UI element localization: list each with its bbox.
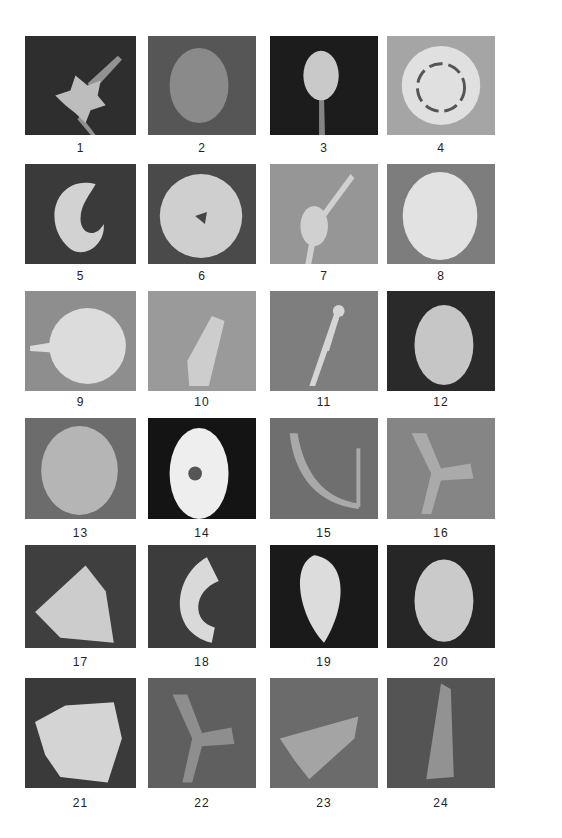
figure-panel-4 [387, 36, 495, 135]
figure-label: 18 [147, 655, 257, 669]
figure-label: 17 [26, 655, 136, 669]
figure-label: 7 [269, 269, 379, 283]
figure-panel-16 [387, 418, 495, 519]
specimen-image [270, 678, 378, 788]
specimen-image [148, 418, 256, 519]
specimen-image [270, 545, 378, 648]
specimen-image [148, 164, 256, 264]
figure-label: 16 [386, 526, 496, 540]
figure-panel-17 [25, 545, 136, 648]
specimen-image [25, 678, 136, 788]
figure-panel-19 [270, 545, 378, 648]
figure-label: 24 [386, 796, 496, 810]
figure-label: 2 [147, 141, 257, 155]
specimen-image [270, 291, 378, 391]
figure-panel-23 [270, 678, 378, 788]
specimen-image [270, 36, 378, 135]
figure-label: 13 [26, 526, 136, 540]
figure-panel-14 [148, 418, 256, 519]
figure-panel-12 [387, 291, 495, 391]
figure-panel-18 [148, 545, 256, 648]
specimen-image [25, 291, 136, 391]
figure-label: 23 [269, 796, 379, 810]
specimen-image [270, 164, 378, 264]
figure-panel-10 [148, 291, 256, 391]
figure-label: 19 [269, 655, 379, 669]
specimen-image [387, 291, 495, 391]
figure-label: 10 [147, 395, 257, 409]
figure-panel-11 [270, 291, 378, 391]
specimen-image [148, 291, 256, 391]
page-header [0, 0, 562, 8]
figure-panel-9 [25, 291, 136, 391]
figure-label: 20 [386, 655, 496, 669]
figure-panel-24 [387, 678, 495, 788]
specimen-image [387, 36, 495, 135]
figure-panel-5 [25, 164, 136, 264]
specimen-image [25, 545, 136, 648]
figure-panel-20 [387, 545, 495, 648]
specimen-image [148, 36, 256, 135]
figure-label: 4 [386, 141, 496, 155]
figure-label: 6 [147, 269, 257, 283]
figure-label: 1 [26, 141, 136, 155]
specimen-image [387, 545, 495, 648]
specimen-image [148, 678, 256, 788]
figure-label: 11 [269, 395, 379, 409]
specimen-image [25, 418, 136, 519]
figure-label: 12 [386, 395, 496, 409]
figure-panel-7 [270, 164, 378, 264]
figure-panel-13 [25, 418, 136, 519]
figure-label: 3 [269, 141, 379, 155]
figure-label: 9 [26, 395, 136, 409]
specimen-image [387, 164, 495, 264]
specimen-image [387, 678, 495, 788]
specimen-image [270, 418, 378, 519]
figure-label: 14 [147, 526, 257, 540]
figure-panel-15 [270, 418, 378, 519]
figure-label: 15 [269, 526, 379, 540]
figure-panel-8 [387, 164, 495, 264]
figure-panel-2 [148, 36, 256, 135]
specimen-image [25, 36, 136, 135]
figure-panel-6 [148, 164, 256, 264]
figure-label: 5 [26, 269, 136, 283]
figure-panel-21 [25, 678, 136, 788]
figure-panel-22 [148, 678, 256, 788]
figure-panel-1 [25, 36, 136, 135]
figure-label: 8 [386, 269, 496, 283]
figure-panel-3 [270, 36, 378, 135]
figure-label: 22 [147, 796, 257, 810]
specimen-image [25, 164, 136, 264]
specimen-image [148, 545, 256, 648]
figure-label: 21 [26, 796, 136, 810]
specimen-image [387, 418, 495, 519]
